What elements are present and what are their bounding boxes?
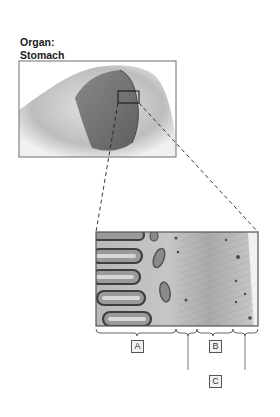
brace-b (197, 329, 233, 336)
label-c: C (209, 375, 222, 388)
layer-braces (96, 329, 258, 336)
brace-a (96, 329, 176, 336)
brace-c-left (176, 329, 197, 336)
diagram-canvas (0, 0, 280, 417)
micrograph (92, 230, 258, 326)
label-a: A (131, 340, 144, 353)
label-b: B (209, 340, 222, 353)
organ-view (19, 61, 176, 157)
brace-c-right (233, 329, 258, 336)
